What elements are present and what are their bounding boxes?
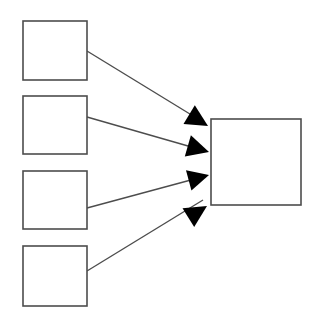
arrowhead-edge-4 <box>183 197 213 227</box>
node-box-source-3[interactable] <box>23 171 87 229</box>
arrowheads-layer <box>183 105 214 227</box>
arrowhead-edge-3 <box>186 165 212 191</box>
edge-source-2-to-target-1 <box>87 117 202 150</box>
node-source-2[interactable] <box>23 96 87 154</box>
node-target-1[interactable] <box>211 119 301 205</box>
node-box-target-1[interactable] <box>211 119 301 205</box>
arrowhead-edge-1 <box>183 105 213 135</box>
edge-source-1-to-target-1 <box>87 51 203 122</box>
node-source-3[interactable] <box>23 171 87 229</box>
diagram-canvas <box>0 0 312 326</box>
edges-layer <box>87 51 203 271</box>
node-source-1[interactable] <box>23 21 87 80</box>
node-source-4[interactable] <box>23 246 87 306</box>
arrowhead-edge-2 <box>185 135 212 162</box>
node-box-source-2[interactable] <box>23 96 87 154</box>
nodes-layer <box>23 21 301 306</box>
node-box-source-1[interactable] <box>23 21 87 80</box>
node-box-source-4[interactable] <box>23 246 87 306</box>
diagram-svg <box>0 0 312 326</box>
edge-source-3-to-target-1 <box>87 177 202 208</box>
